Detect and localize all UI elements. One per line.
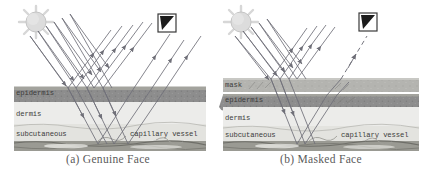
panel-masked-face: mask epidermis dermis subcutaneous capil… [219,0,423,184]
layer-dermis [14,102,206,124]
muscle-highlight-1 [255,144,299,149]
mask-top-edge [223,78,419,80]
label-dermis: dermis [16,110,41,118]
muscle-highlight-2 [343,145,395,149]
label-epidermis: epidermis [225,96,263,104]
layer-dermis [223,107,419,126]
label-mask: mask [225,81,242,89]
muscle-highlight-2 [130,145,182,149]
label-subcutaneous: subcutaneous [225,131,276,139]
figure-light-skin-interaction: epidermis dermis subcutaneous capillary … [0,0,427,184]
camera-icon [158,14,176,32]
label-epidermis: epidermis [16,89,54,97]
camera-icon [359,13,377,31]
label-capillary-vessel: capillary vessel [341,131,408,139]
emerging-rays-tail [156,34,201,58]
label-subcutaneous: subcutaneous [16,130,67,138]
label-dermis: dermis [225,114,250,122]
sun-icon [224,6,258,38]
attenuated-ray-arrow [348,54,356,68]
muscle-highlight-1 [44,144,88,149]
scene-masked-face: mask epidermis dermis subcutaneous capil… [219,0,423,155]
mask-reflected-rays-tail [293,25,335,48]
panel-genuine-face: epidermis dermis subcutaneous capillary … [6,0,210,184]
reflected-rays [68,45,134,88]
caption-genuine-face: (a) Genuine Face [6,153,210,165]
label-capillary-vessel: capillary vessel [130,130,197,138]
caption-masked-face: (b) Masked Face [219,153,423,165]
scene-genuine-face: epidermis dermis subcutaneous capillary … [6,0,210,155]
emerging-rays [134,55,188,88]
sun-icon [19,6,53,38]
